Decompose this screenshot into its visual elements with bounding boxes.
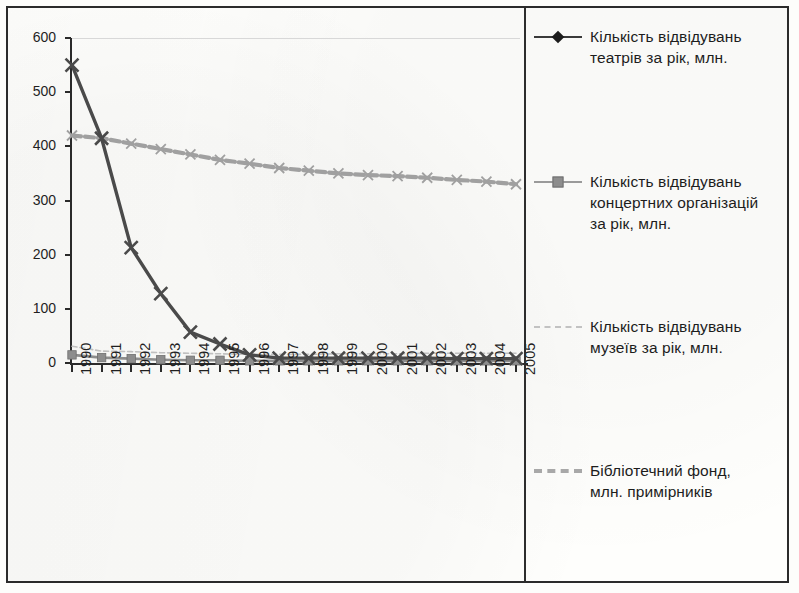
- diamond-marker-icon: [552, 30, 565, 43]
- x-tick: [249, 365, 251, 372]
- chart-legend: Кількість відвідувань театрів за рік, мл…: [526, 8, 789, 581]
- y-tick-label: 400: [22, 137, 56, 153]
- y-tick-label: 300: [22, 192, 56, 208]
- x-tick-label: 1993: [167, 343, 183, 375]
- plot-area: 0100200300400500600 19901991199219931994…: [8, 8, 524, 581]
- x-tick: [189, 365, 191, 372]
- y-tick: [65, 254, 71, 256]
- square-marker-icon: [216, 356, 224, 364]
- x-tick-label: 1991: [108, 343, 124, 375]
- x-tick: [130, 365, 132, 372]
- dashed-line-sample-icon: [534, 326, 582, 328]
- y-tick-label: 600: [22, 29, 56, 45]
- y-tick: [65, 37, 71, 39]
- x-tick: [278, 365, 280, 372]
- x-tick-label: 1996: [256, 343, 272, 375]
- legend-key-theatres: [534, 28, 582, 45]
- series-line: [72, 65, 516, 359]
- square-marker-icon: [127, 354, 135, 362]
- series-3: [67, 131, 521, 190]
- x-tick-label: 1997: [285, 343, 301, 375]
- x-tick: [71, 365, 73, 372]
- y-tick-label: 0: [22, 354, 56, 370]
- legend-label-concerts: Кількість відвідувань концертних організ…: [590, 171, 758, 234]
- x-tick-label: 2002: [433, 343, 449, 375]
- x-marker-icon: [66, 59, 79, 72]
- legend-label-theatres: Кількість відвідувань театрів за рік, мл…: [590, 26, 742, 68]
- x-tick: [456, 365, 458, 372]
- y-tick-label: 100: [22, 300, 56, 316]
- x-tick: [426, 365, 428, 372]
- y-tick-label: 500: [22, 83, 56, 99]
- x-tick: [308, 365, 310, 372]
- x-tick-label: 1992: [137, 343, 153, 375]
- x-tick-label: 1998: [315, 343, 331, 375]
- x-tick: [101, 365, 103, 372]
- square-marker-icon: [186, 356, 194, 364]
- x-tick-label: 1990: [78, 343, 94, 375]
- square-marker-icon: [157, 356, 165, 364]
- legend-label-museums: Кількість відвідувань музеїв за рік, млн…: [590, 316, 742, 358]
- x-tick-label: 1994: [196, 343, 212, 375]
- chart-frame: 0100200300400500600 19901991199219931994…: [6, 6, 789, 583]
- legend-key-museums: [534, 318, 582, 335]
- x-tick-label: 1999: [344, 343, 360, 375]
- x-tick: [397, 365, 399, 372]
- series-layer: [8, 8, 524, 581]
- square-marker-icon: [68, 351, 76, 359]
- legend-item-theatres[interactable]: Кількість відвідувань театрів за рік, мл…: [534, 26, 786, 68]
- series-0: [66, 59, 523, 366]
- y-tick: [65, 200, 71, 202]
- x-marker-icon: [154, 287, 167, 300]
- x-tick: [485, 365, 487, 372]
- y-tick-label: 200: [22, 246, 56, 262]
- x-tick: [337, 365, 339, 372]
- y-tick: [65, 145, 71, 147]
- x-tick: [219, 365, 221, 372]
- legend-key-library: [534, 462, 582, 479]
- legend-label-library: Бібліотечний фонд, млн. примірників: [590, 460, 731, 502]
- dashed-line-sample-icon: [534, 469, 582, 473]
- x-tick: [160, 365, 162, 372]
- y-tick: [65, 362, 71, 364]
- square-marker-icon: [97, 353, 105, 361]
- x-tick: [367, 365, 369, 372]
- x-tick-label: 2004: [492, 343, 508, 375]
- legend-item-library[interactable]: Бібліотечний фонд, млн. примірників: [534, 460, 786, 502]
- x-tick-label: 2003: [463, 343, 479, 375]
- legend-item-museums[interactable]: Кількість відвідувань музеїв за рік, млн…: [534, 316, 786, 358]
- series-line: [72, 136, 516, 185]
- legend-key-concerts: [534, 173, 582, 190]
- x-tick-label: 2000: [374, 343, 390, 375]
- x-tick: [515, 365, 517, 372]
- x-tick-label: 1995: [226, 343, 242, 375]
- square-marker-icon: [553, 176, 564, 187]
- legend-item-concerts[interactable]: Кількість відвідувань концертних організ…: [534, 171, 786, 234]
- y-tick: [65, 308, 71, 310]
- x-tick-label: 2001: [404, 343, 420, 375]
- y-tick: [65, 91, 71, 93]
